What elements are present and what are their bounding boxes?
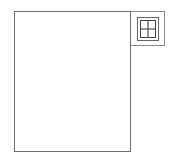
window-horizontal-divider — [141, 29, 155, 30]
window-icon — [137, 17, 159, 41]
main-panel — [14, 11, 131, 152]
window-pane-frame — [140, 20, 156, 38]
corner-icon-box[interactable] — [131, 11, 165, 46]
